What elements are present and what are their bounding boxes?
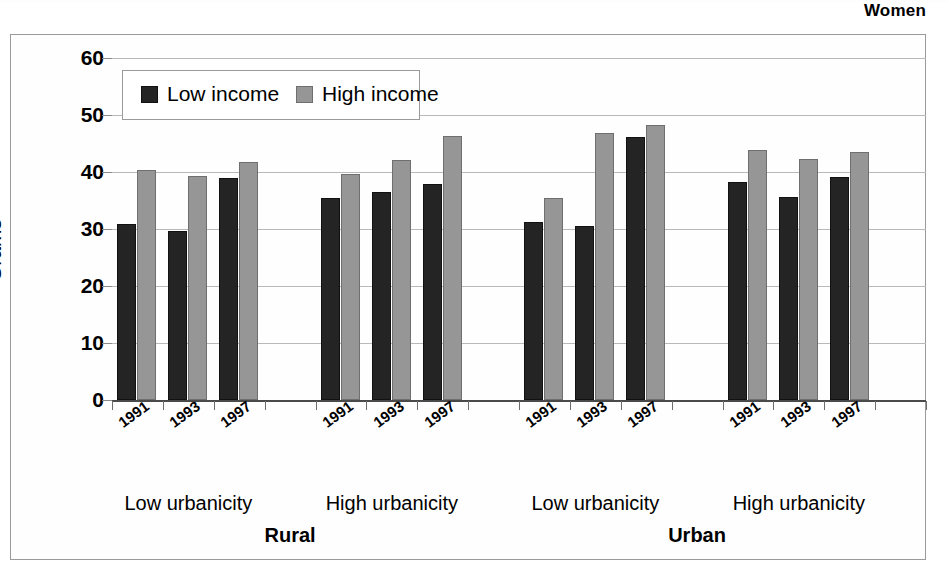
bar-high-income-1993-10 (799, 159, 818, 400)
x-tick-mark-16 (926, 401, 927, 410)
bar-low-income-1993-1 (168, 231, 187, 400)
y-tick-mark-50 (102, 115, 112, 116)
bar-low-income-1997-5 (423, 184, 442, 400)
legend-entry-high-income[interactable]: High income (296, 82, 439, 106)
chart-legend: Low income High income (122, 70, 420, 120)
y-tick-mark-60 (102, 58, 112, 59)
legend-label-high-income: High income (322, 82, 439, 106)
bar-high-income-1991-3 (341, 174, 360, 400)
y-tick-mark-0 (102, 400, 112, 401)
bar-low-income-1997-8 (626, 137, 645, 400)
legend-entry-low-income[interactable]: Low income (141, 82, 279, 106)
bar-high-income-1997-5 (443, 136, 462, 400)
legend-swatch-low-income (141, 86, 158, 103)
panel-label-urban: Urban (597, 524, 797, 547)
bar-low-income-1991-9 (728, 182, 747, 400)
figure-title: Women (864, 1, 926, 21)
bar-high-income-1993-1 (188, 176, 207, 400)
bar-high-income-1991-6 (544, 198, 563, 400)
bar-high-income-1997-11 (850, 152, 869, 400)
bar-high-income-1993-7 (595, 133, 614, 400)
y-tick-mark-20 (102, 286, 112, 287)
y-tick-mark-10 (102, 343, 112, 344)
y-tick-mark-30 (102, 229, 112, 230)
bar-high-income-1997-8 (646, 125, 665, 400)
y-tick-mark-40 (102, 172, 112, 173)
bar-low-income-1991-6 (524, 222, 543, 400)
bar-low-income-1993-10 (779, 197, 798, 400)
x-tick-mark-0 (112, 401, 113, 410)
bar-high-income-1993-4 (392, 160, 411, 400)
x-tick-mark-2 (214, 401, 215, 410)
panel-label-rural: Rural (190, 524, 390, 547)
y-tick-label-30: 30 (60, 217, 104, 241)
legend-swatch-high-income (296, 86, 313, 103)
group-label-2: Low urbanicity (490, 492, 700, 515)
y-tick-label-0: 0 (60, 388, 104, 412)
y-tick-label-10: 10 (60, 331, 104, 355)
x-tick-mark-9 (570, 401, 571, 410)
legend-label-low-income: Low income (167, 82, 279, 106)
bar-low-income-1997-2 (219, 178, 238, 400)
x-tick-mark-1 (163, 401, 164, 410)
group-label-0: Low urbanicity (83, 492, 293, 515)
bar-low-income-1993-7 (575, 226, 594, 400)
x-tick-mark-8 (519, 401, 520, 410)
gridline-60 (112, 58, 926, 59)
x-tick-mark-3 (265, 401, 266, 410)
bar-high-income-1991-0 (137, 170, 156, 400)
bar-high-income-1991-9 (748, 150, 767, 400)
x-tick-mark-4 (316, 401, 317, 410)
x-tick-mark-12 (723, 401, 724, 410)
bar-low-income-1991-3 (321, 198, 340, 400)
y-tick-label-60: 60 (60, 46, 104, 70)
y-tick-label-20: 20 (60, 274, 104, 298)
x-tick-mark-14 (824, 401, 825, 410)
x-tick-mark-15 (875, 401, 876, 410)
x-tick-mark-5 (366, 401, 367, 410)
bar-high-income-1997-2 (239, 162, 258, 400)
x-tick-mark-10 (621, 401, 622, 410)
bar-low-income-1991-0 (117, 224, 136, 400)
x-tick-mark-13 (773, 401, 774, 410)
x-tick-mark-6 (417, 401, 418, 410)
bar-low-income-1997-11 (830, 177, 849, 400)
y-tick-label-50: 50 (60, 103, 104, 127)
group-label-3: High urbanicity (694, 492, 904, 515)
group-label-1: High urbanicity (287, 492, 497, 515)
x-tick-mark-11 (672, 401, 673, 410)
y-axis-title: Grams (0, 219, 6, 282)
bar-low-income-1993-4 (372, 192, 391, 400)
x-tick-mark-7 (468, 401, 469, 410)
y-tick-label-40: 40 (60, 160, 104, 184)
